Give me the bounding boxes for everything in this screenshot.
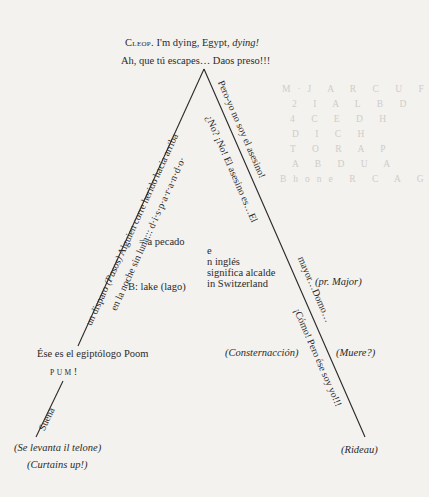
major-note: (pr. Major) — [315, 277, 362, 288]
equals-note: = a pecado — [139, 237, 185, 248]
consternation-note: (Consternacción) — [225, 348, 299, 359]
curtain-rises-note: (Se levanta il telone) — [14, 443, 101, 454]
lake-note: B: lake (lago) — [128, 282, 186, 293]
rideau-note: (Rideau) — [341, 445, 378, 456]
speaker-text: I'm dying, Egypt, — [154, 37, 232, 48]
english-note: e n inglés significa alcalde in Switzerl… — [207, 245, 276, 289]
note-line: e — [207, 245, 276, 256]
muere-note: (Muere?) — [336, 348, 375, 359]
speaker-name: Cleop. — [125, 37, 154, 48]
note-line: significa alcalde — [207, 267, 276, 278]
pum-word: PUM — [50, 368, 74, 377]
note-line: in Switzerland — [207, 278, 276, 289]
curtains-up-note: (Curtains up!) — [27, 460, 87, 471]
escape-line: Ah, que tú escapes… Daos preso!!! — [121, 56, 270, 67]
pum-bang: ! — [74, 366, 78, 377]
note-line: n inglés — [207, 256, 276, 267]
cleopatra-line: Cleop. I'm dying, Egypt, dying! — [125, 38, 259, 49]
pum-sound: PUM! — [50, 367, 77, 378]
speaker-italic: dying! — [232, 37, 259, 48]
poom-line: Ése es el egiptólogo Poom — [37, 349, 148, 360]
